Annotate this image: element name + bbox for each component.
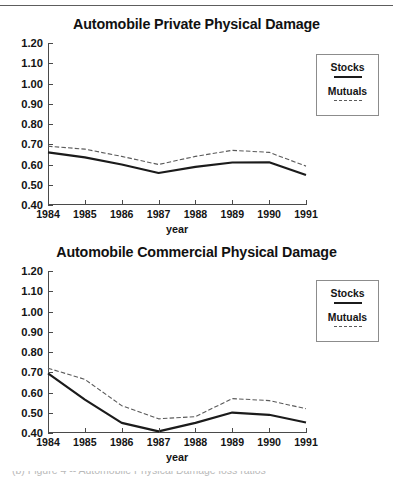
x-axis-tick <box>48 200 49 205</box>
y-axis-tick: 0.40 <box>48 433 53 434</box>
y-axis-tick: 0.60 <box>48 393 53 394</box>
legend-2: Stocks Mutuals <box>316 280 379 342</box>
y-axis-tick-label: 0.80 <box>21 118 43 130</box>
plot-area-2: 0.400.500.600.700.800.901.001.101.201984… <box>48 271 306 433</box>
x-axis-tick-label: 1985 <box>73 208 97 220</box>
x-axis-tick-label: 1987 <box>147 208 171 220</box>
page-title: Automobile Private Physical Damage <box>0 16 393 32</box>
chart-commercial-physical-damage: Automobile Commercial Physical Damage 0.… <box>0 238 393 470</box>
x-axis-tick <box>48 428 49 433</box>
figure-page: Automobile Private Physical Damage 0.400… <box>0 0 393 484</box>
y-axis-tick: 0.80 <box>48 124 53 125</box>
x-axis-title: year <box>48 223 306 235</box>
y-axis-tick: 0.60 <box>48 165 53 166</box>
y-axis-tick-label: 1.00 <box>21 306 43 318</box>
y-axis-tick: 0.70 <box>48 144 53 145</box>
y-axis-tick-label: 1.20 <box>21 37 43 49</box>
y-axis-tick: 0.70 <box>48 372 53 373</box>
x-axis-tick-label: 1989 <box>220 208 244 220</box>
clipped-caption: (b) Figure 4 -- Automobile Physical Dama… <box>12 471 372 484</box>
series-canvas-1 <box>48 43 306 205</box>
series-line-stocks <box>48 373 306 431</box>
legend-label-stocks: Stocks <box>317 62 378 74</box>
legend-entry-mutuals: Mutuals <box>317 312 378 327</box>
legend-entry-stocks: Stocks <box>317 62 378 78</box>
series-line-stocks <box>48 152 306 175</box>
y-axis-tick: 0.50 <box>48 185 53 186</box>
clipped-caption-text: (b) Figure 4 -- Automobile Physical Dama… <box>12 471 372 476</box>
header-divider <box>0 5 393 6</box>
x-axis-tick-label: 1987 <box>147 436 171 448</box>
page-title-2: Automobile Commercial Physical Damage <box>0 244 393 260</box>
dashed-line-swatch-icon <box>334 100 362 101</box>
x-axis-tick-label: 1986 <box>110 436 134 448</box>
x-axis-tick <box>195 428 196 433</box>
x-axis-tick <box>85 200 86 205</box>
x-axis-tick-label: 1990 <box>257 436 281 448</box>
x-axis-tick-label: 1988 <box>184 436 208 448</box>
y-axis-tick-label: 0.60 <box>21 159 43 171</box>
y-axis-tick-label: 0.70 <box>21 138 43 150</box>
x-axis-title: year <box>48 451 306 463</box>
legend-entry-mutuals: Mutuals <box>317 86 378 101</box>
legend-label-stocks: Stocks <box>317 288 378 300</box>
legend-label-mutuals: Mutuals <box>317 312 378 324</box>
y-axis-tick: 1.00 <box>48 84 53 85</box>
x-axis-tick-label: 1990 <box>257 208 281 220</box>
plot-area-1: 0.400.500.600.700.800.901.001.101.201984… <box>48 43 306 205</box>
y-axis-tick: 0.40 <box>48 205 53 206</box>
x-axis-tick <box>306 200 307 205</box>
x-axis-tick-label: 1989 <box>220 436 244 448</box>
x-axis-tick <box>122 200 123 205</box>
y-axis-tick: 0.90 <box>48 332 53 333</box>
x-axis-tick-label: 1984 <box>36 208 60 220</box>
y-axis-tick: 0.80 <box>48 352 53 353</box>
x-axis-tick <box>195 200 196 205</box>
legend-1: Stocks Mutuals <box>316 54 379 116</box>
y-axis-tick-label: 1.00 <box>21 78 43 90</box>
x-axis-tick <box>232 200 233 205</box>
x-axis-tick <box>269 428 270 433</box>
y-axis-tick-label: 1.10 <box>21 57 43 69</box>
solid-line-swatch-icon <box>334 302 362 304</box>
x-axis-tick <box>269 200 270 205</box>
x-axis-tick-label: 1985 <box>73 436 97 448</box>
x-axis-tick <box>159 428 160 433</box>
x-axis-tick <box>122 428 123 433</box>
y-axis-tick-label: 0.50 <box>21 407 43 419</box>
y-axis-tick: 1.20 <box>48 271 53 272</box>
y-axis-tick-label: 1.10 <box>21 285 43 297</box>
y-axis-tick-label: 0.60 <box>21 387 43 399</box>
series-line-mutuals <box>48 368 306 419</box>
series-canvas-2 <box>48 271 306 433</box>
y-axis-tick-label: 0.50 <box>21 179 43 191</box>
x-axis-tick <box>306 428 307 433</box>
legend-entry-stocks: Stocks <box>317 288 378 304</box>
y-axis-tick: 1.20 <box>48 43 53 44</box>
x-axis-tick-label: 1991 <box>294 436 318 448</box>
x-axis-tick <box>85 428 86 433</box>
x-axis-tick <box>159 200 160 205</box>
x-axis-tick-label: 1986 <box>110 208 134 220</box>
chart-private-physical-damage: Automobile Private Physical Damage 0.400… <box>0 10 393 242</box>
y-axis-tick-label: 1.20 <box>21 265 43 277</box>
solid-line-swatch-icon <box>334 76 362 78</box>
y-axis-tick-label: 0.90 <box>21 326 43 338</box>
y-axis-tick: 1.10 <box>48 291 53 292</box>
y-axis-tick: 1.00 <box>48 312 53 313</box>
y-axis-tick: 1.10 <box>48 63 53 64</box>
y-axis-tick-label: 0.70 <box>21 366 43 378</box>
y-axis-tick-label: 0.90 <box>21 98 43 110</box>
legend-label-mutuals: Mutuals <box>317 86 378 98</box>
y-axis-tick: 0.50 <box>48 413 53 414</box>
x-axis-tick-label: 1988 <box>184 208 208 220</box>
y-axis-tick-label: 0.80 <box>21 346 43 358</box>
x-axis-tick-label: 1991 <box>294 208 318 220</box>
x-axis-tick <box>232 428 233 433</box>
dashed-line-swatch-icon <box>334 326 362 327</box>
y-axis-tick: 0.90 <box>48 104 53 105</box>
x-axis-tick-label: 1984 <box>36 436 60 448</box>
